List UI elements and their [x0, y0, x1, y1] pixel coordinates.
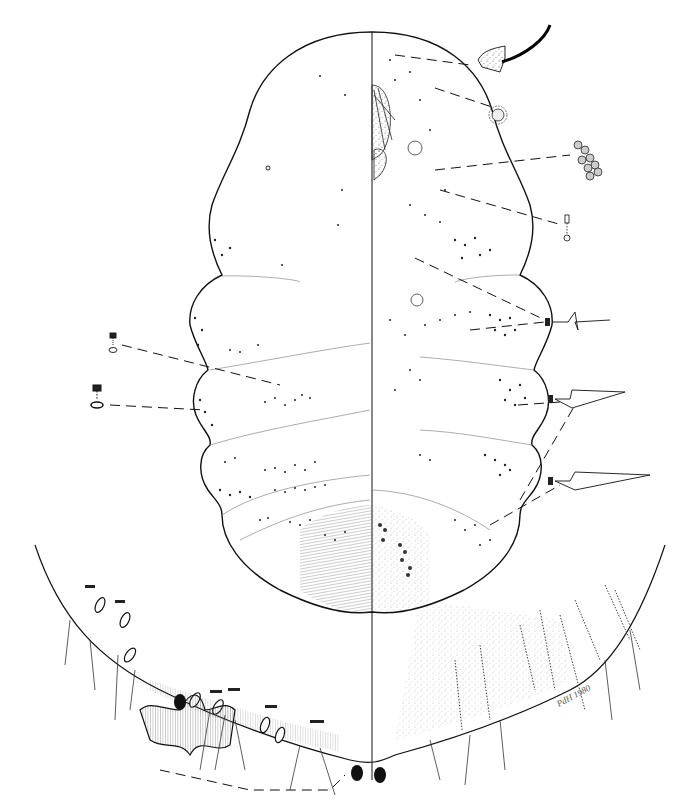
scientific-illustration	[0, 0, 697, 804]
mouthparts	[372, 85, 395, 180]
antenna-detail-icon	[478, 25, 550, 72]
oral-collar-duct-large-icon	[91, 385, 103, 408]
seta-short-detail-icon	[545, 312, 610, 330]
seta-long-detail-icon	[548, 472, 650, 490]
pore-cluster-detail-icon	[574, 141, 602, 180]
oral-collar-duct-small-icon	[109, 333, 117, 353]
anal-lobe-area	[300, 505, 372, 613]
spiracle-posterior	[411, 294, 423, 306]
spiracle-anterior	[408, 141, 422, 155]
tubular-duct-detail-icon	[564, 215, 570, 241]
seta-medium-detail-icon	[548, 390, 625, 408]
